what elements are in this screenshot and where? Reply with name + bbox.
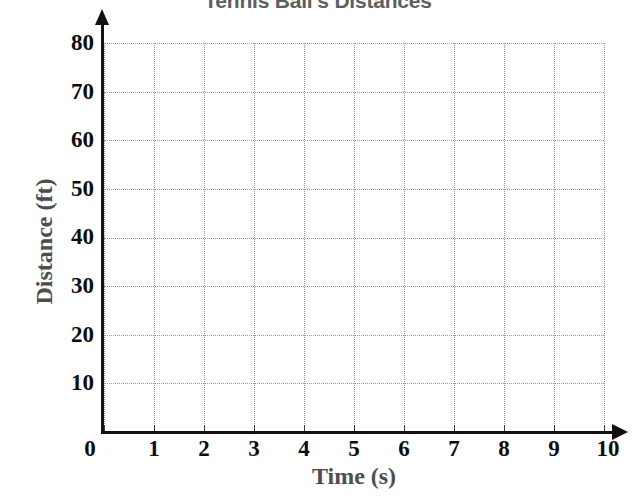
gridline-horizontal	[104, 383, 604, 384]
gridline-horizontal	[104, 335, 604, 336]
x-axis-tick-label: 5	[334, 437, 374, 460]
gridline-vertical	[604, 43, 605, 432]
gridline-horizontal	[104, 140, 604, 141]
x-axis-tick	[254, 425, 255, 431]
x-axis-tick-label: 8	[484, 437, 524, 460]
x-axis-tick	[604, 425, 605, 431]
x-axis-tick-label: 10	[588, 437, 628, 460]
x-axis-tick-label: 1	[134, 437, 174, 460]
x-axis-tick-label: 4	[284, 437, 324, 460]
x-axis-tick	[354, 425, 355, 431]
x-axis-tick	[204, 425, 205, 431]
gridline-horizontal	[104, 43, 604, 44]
y-axis-arrow-icon	[95, 9, 109, 25]
y-axis-tick-label: 10	[34, 371, 94, 394]
y-axis-title: Distance (ft)	[31, 112, 58, 372]
x-axis-tick-label: 0	[70, 437, 110, 460]
x-axis-tick	[104, 425, 105, 431]
y-axis-tick-label: 80	[34, 31, 94, 54]
x-axis-tick-label: 7	[434, 437, 474, 460]
plot-area	[104, 43, 604, 432]
x-axis-tick-label: 3	[234, 437, 274, 460]
x-axis-tick	[304, 425, 305, 431]
x-axis-tick	[504, 425, 505, 431]
x-axis-tick	[454, 425, 455, 431]
y-axis-line	[101, 22, 104, 434]
gridline-horizontal	[104, 286, 604, 287]
x-axis-tick-label: 2	[184, 437, 224, 460]
chart-container: Tennis Ball's Distances 80 70 60	[0, 0, 636, 497]
x-axis-tick-label: 9	[534, 437, 574, 460]
x-axis-tick	[154, 425, 155, 431]
x-axis-tick	[554, 425, 555, 431]
y-axis-tick-label: 70	[34, 80, 94, 103]
x-axis-title: Time (s)	[104, 463, 604, 490]
x-axis-line	[102, 431, 614, 434]
gridline-horizontal	[104, 238, 604, 239]
gridline-horizontal	[104, 92, 604, 93]
x-axis-tick	[404, 425, 405, 431]
x-axis-tick-label: 6	[384, 437, 424, 460]
gridline-horizontal	[104, 189, 604, 190]
